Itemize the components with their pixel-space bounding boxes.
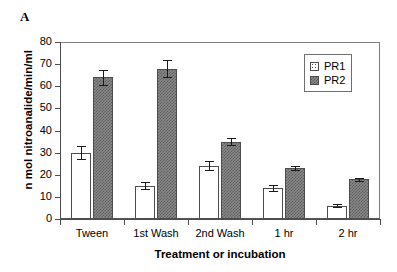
bar-pr2-2-hr xyxy=(349,179,369,219)
error-bar-cap-lower xyxy=(227,145,236,146)
error-bar-cap-lower xyxy=(163,77,172,78)
y-axis-tick xyxy=(55,131,60,132)
x-axis-tick xyxy=(380,220,381,225)
error-bar-cap-lower xyxy=(141,189,150,190)
legend-label-pr2: PR2 xyxy=(324,75,345,86)
bar-pr2-1-hr xyxy=(285,168,305,219)
error-bar-stem xyxy=(103,70,104,85)
x-axis-tick xyxy=(124,220,125,225)
error-bar-cap-upper xyxy=(205,161,214,162)
x-axis-title: Treatment or incubation xyxy=(60,249,380,261)
y-axis-tick xyxy=(55,108,60,109)
error-bar-cap-upper xyxy=(141,182,150,183)
bar-pr1-tween xyxy=(71,153,91,219)
y-axis-tick xyxy=(55,153,60,154)
error-bar-cap-upper xyxy=(163,60,172,61)
x-axis-label-2-hr: 2 hr xyxy=(316,228,380,239)
error-bar-stem xyxy=(209,161,210,170)
error-bar-cap-upper xyxy=(77,146,86,147)
error-bar-stem xyxy=(167,60,168,78)
error-bar-cap-upper xyxy=(269,185,278,186)
error-bar-cap-lower xyxy=(355,181,364,182)
y-axis-tick xyxy=(55,175,60,176)
legend-swatch-pr1-icon xyxy=(310,62,319,71)
legend: PR1 PR2 xyxy=(304,54,352,92)
error-bar-cap-upper xyxy=(333,204,342,205)
y-axis-title: n mol nitroanalide/min/ml xyxy=(23,25,35,215)
error-bar-cap-upper xyxy=(227,138,236,139)
x-axis-tick xyxy=(316,220,317,225)
y-axis-tick xyxy=(55,197,60,198)
bar-pr2-tween xyxy=(93,77,113,219)
error-bar-cap-lower xyxy=(99,85,108,86)
error-bar-stem xyxy=(81,146,82,159)
error-bar-cap-lower xyxy=(333,207,342,208)
legend-item-pr2: PR2 xyxy=(310,73,345,87)
legend-swatch-pr2-icon xyxy=(310,76,319,85)
bar-pr1-1-hr xyxy=(263,188,283,219)
bar-pr2-1st-wash xyxy=(157,69,177,219)
bar-pr2-2nd-wash xyxy=(221,142,241,219)
bar-pr1-2nd-wash xyxy=(199,166,219,219)
error-bar-cap-lower xyxy=(77,159,86,160)
error-bar-cap-upper xyxy=(355,178,364,179)
x-axis-tick xyxy=(60,220,61,225)
x-axis-label-tween: Tween xyxy=(60,228,124,239)
x-axis-line xyxy=(60,219,381,220)
y-axis-line xyxy=(60,42,61,220)
y-axis-tick xyxy=(55,64,60,65)
error-bar-cap-lower xyxy=(291,170,300,171)
legend-item-pr1: PR1 xyxy=(310,59,345,73)
y-axis-tick xyxy=(55,86,60,87)
error-bar-cap-upper xyxy=(99,70,108,71)
x-axis-label-1st-wash: 1st Wash xyxy=(124,228,188,239)
bar-chart-figure: A 80706050403020100 n mol nitroanalide/m… xyxy=(0,0,397,272)
bar-pr1-1st-wash xyxy=(135,186,155,219)
y-axis-tick xyxy=(55,42,60,43)
legend-label-pr1: PR1 xyxy=(324,61,345,72)
error-bar-cap-lower xyxy=(269,191,278,192)
x-axis-label-2nd-wash: 2nd Wash xyxy=(188,228,252,239)
error-bar-cap-upper xyxy=(291,166,300,167)
x-axis-tick xyxy=(252,220,253,225)
x-axis-tick xyxy=(188,220,189,225)
error-bar-cap-lower xyxy=(205,170,214,171)
x-axis-label-1-hr: 1 hr xyxy=(252,228,316,239)
